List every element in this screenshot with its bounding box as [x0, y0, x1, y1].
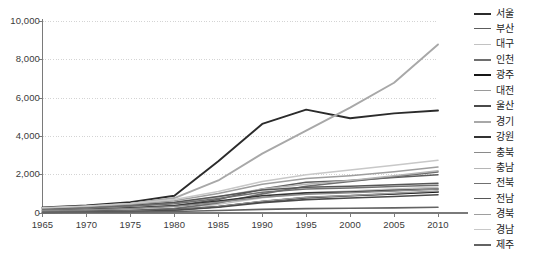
legend-swatch-icon [474, 13, 491, 15]
x-tick-label: 2010 [417, 219, 459, 230]
legend-item[interactable]: 충남 [474, 161, 539, 176]
y-axis: 02,0004,0006,0008,00010,000 [0, 0, 40, 255]
legend-label: 경북 [496, 208, 514, 220]
legend-label: 대전 [496, 85, 514, 97]
y-tick-label: 0 [2, 208, 40, 218]
legend-item[interactable]: 전남 [474, 191, 539, 206]
legend-item[interactable]: 대구 [474, 37, 539, 52]
legend-item[interactable]: 대전 [474, 83, 539, 98]
legend-swatch-icon [474, 28, 491, 29]
x-tick-label: 1990 [241, 219, 283, 230]
legend-swatch-icon [474, 198, 491, 199]
x-axis: 1965197019751980198519901995200020052010 [0, 219, 470, 239]
x-tick-label: 1995 [285, 219, 327, 230]
legend-item[interactable]: 인천 [474, 52, 539, 67]
legend-swatch-icon [474, 183, 491, 184]
legend-item[interactable]: 강원 [474, 130, 539, 145]
legend-swatch-icon [474, 74, 491, 76]
legend-label: 서울 [496, 8, 514, 20]
legend-label: 제주 [496, 239, 514, 251]
legend-item[interactable]: 경북 [474, 207, 539, 222]
legend-item[interactable]: 전북 [474, 176, 539, 191]
y-tick-label: 6,000 [2, 93, 40, 103]
y-tick-label: 4,000 [2, 131, 40, 141]
x-tick-label: 2005 [373, 219, 415, 230]
legend-label: 광주 [496, 69, 514, 81]
legend-label: 울산 [496, 100, 514, 112]
legend-item[interactable]: 충북 [474, 145, 539, 160]
legend-item[interactable]: 서울 [474, 6, 539, 21]
legend-label: 전남 [496, 193, 514, 205]
legend-label: 충북 [496, 147, 514, 159]
legend-item[interactable]: 경기 [474, 114, 539, 129]
x-tick-label: 1965 [22, 219, 64, 230]
x-tick-label: 2000 [329, 219, 371, 230]
legend-label: 전북 [496, 177, 514, 189]
x-tick-label: 1975 [109, 219, 151, 230]
legend-swatch-icon [474, 136, 491, 138]
legend-label: 경남 [496, 224, 514, 236]
x-tick-label: 1970 [65, 219, 107, 230]
legend: 서울부산대구인천광주대전울산경기강원충북충남전북전남경북경남제주 [474, 6, 539, 255]
x-tick-label: 1985 [197, 219, 239, 230]
legend-swatch-icon [474, 105, 491, 107]
legend-item[interactable]: 부산 [474, 21, 539, 36]
legend-label: 대구 [496, 38, 514, 50]
y-tick-label: 2,000 [2, 169, 40, 179]
legend-item[interactable]: 광주 [474, 68, 539, 83]
legend-label: 충남 [496, 162, 514, 174]
plot-area [0, 0, 470, 255]
legend-swatch-icon [474, 44, 491, 45]
legend-item[interactable]: 울산 [474, 99, 539, 114]
legend-label: 경기 [496, 116, 514, 128]
legend-label: 인천 [496, 54, 514, 66]
legend-swatch-icon [474, 229, 491, 230]
line-chart: 02,0004,0006,0008,00010,000 196519701975… [0, 0, 539, 255]
legend-label: 부산 [496, 23, 514, 35]
legend-item[interactable]: 경남 [474, 222, 539, 237]
plot-svg [0, 0, 470, 255]
legend-swatch-icon [474, 90, 491, 91]
legend-swatch-icon [474, 152, 491, 153]
legend-swatch-icon [474, 121, 491, 123]
legend-swatch-icon [474, 59, 491, 61]
x-tick-label: 1980 [153, 219, 195, 230]
legend-swatch-icon [474, 214, 491, 215]
legend-swatch-icon [474, 244, 491, 246]
y-tick-label: 10,000 [2, 16, 40, 26]
y-tick-label: 8,000 [2, 54, 40, 64]
legend-item[interactable]: 제주 [474, 238, 539, 253]
series-line [43, 44, 439, 208]
legend-swatch-icon [474, 168, 491, 169]
legend-label: 강원 [496, 131, 514, 143]
